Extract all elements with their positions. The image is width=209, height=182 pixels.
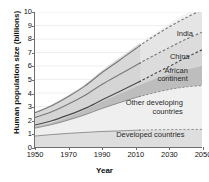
x-tick-label: 1990	[94, 151, 111, 159]
y-tick-mark	[32, 66, 35, 67]
y-tick-mark	[32, 39, 35, 40]
series-label: Developed countries	[116, 131, 184, 140]
x-tick-label: 2010	[127, 151, 144, 159]
y-tick-mark	[32, 107, 35, 108]
x-tick-mark	[102, 147, 103, 150]
y-tick-mark	[32, 26, 35, 27]
x-tick-mark	[169, 147, 170, 150]
series-label: India	[177, 30, 193, 39]
x-axis-title: Year	[0, 166, 209, 175]
x-tick-mark	[136, 147, 137, 150]
y-tick-mark	[32, 94, 35, 95]
y-tick-label: 10	[24, 8, 32, 16]
series-label: Other developing countries	[126, 99, 183, 116]
y-tick-mark	[32, 134, 35, 135]
x-tick-mark	[35, 147, 36, 150]
y-axis-title: Human population size (billions)	[12, 3, 21, 143]
y-tick-mark	[32, 121, 35, 122]
x-tick-mark	[69, 147, 70, 150]
x-tick-label: 2030	[161, 151, 178, 159]
x-tick-label: 1950	[27, 151, 44, 159]
x-tick-label: 1970	[60, 151, 77, 159]
y-tick-mark	[32, 12, 35, 13]
series-label: China	[170, 53, 190, 62]
y-tick-mark	[32, 80, 35, 81]
x-tick-label: 2050	[195, 151, 209, 159]
plot-area: 012345678910 195019701990201020302050 In…	[34, 12, 202, 148]
population-chart-figure: Human population size (billions) 0123456…	[0, 0, 209, 182]
y-tick-mark	[32, 53, 35, 54]
series-label: African continent	[157, 66, 187, 83]
x-tick-mark	[203, 147, 204, 150]
